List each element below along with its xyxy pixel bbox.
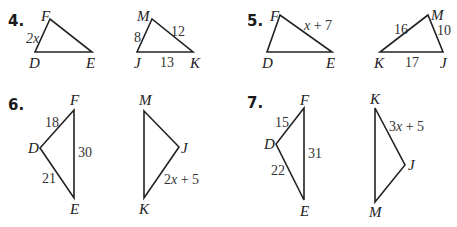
problem-7: 7. F D E 15 31 22 K J M 3x + 5 [247, 91, 424, 220]
problem-6: 6. F D E 18 30 21 M J K 2x + 5 [8, 92, 199, 217]
vertex-label-d: D [263, 136, 275, 152]
side-label-de: 22 [271, 163, 285, 178]
vertex-label-k: K [369, 91, 381, 107]
vertex-label-j: J [181, 140, 189, 156]
worksheet-figure: 4. F D E 2x M J K 8 12 13 5. F D E x + 7 [0, 0, 457, 227]
side-label-fe: 30 [78, 145, 92, 160]
vertex-label-m: M [136, 8, 151, 24]
side-label-mj: 10 [437, 23, 451, 38]
vertex-label-k: K [138, 201, 150, 217]
problem-5: 5. F D E x + 7 M K J 16 10 17 [247, 7, 451, 71]
vertex-label-j: J [134, 55, 142, 71]
vertex-label-d: D [28, 55, 40, 71]
side-label-kj: 3x + 5 [389, 119, 424, 134]
vertex-label-f: F [40, 8, 51, 24]
vertex-label-f: F [269, 8, 280, 24]
side-label-df: 18 [45, 115, 59, 130]
triangle-def: F D E 18 30 21 [27, 92, 92, 217]
problem-number: 4. [8, 12, 24, 30]
side-label-jk: 2x + 5 [164, 172, 199, 187]
side-label-jk: 13 [160, 55, 174, 70]
problem-number: 5. [247, 12, 263, 30]
side-label-km: 16 [394, 22, 408, 37]
triangle-mjk: M J K 8 12 13 [134, 8, 201, 71]
vertex-label-j: J [408, 157, 416, 173]
side-label-jm: 8 [134, 30, 141, 45]
side-label-df: 15 [275, 115, 289, 130]
vertex-label-m: M [138, 92, 153, 108]
triangle-def: F D E x + 7 [261, 8, 335, 71]
vertex-label-e: E [325, 55, 335, 71]
vertex-label-e: E [299, 203, 309, 219]
side-label-kj: 17 [405, 55, 419, 70]
side-label-fe: 31 [308, 146, 322, 161]
side-label-df: 2x [26, 31, 40, 46]
triangle-kjm: K J M 3x + 5 [368, 91, 424, 220]
vertex-label-k: K [189, 55, 201, 71]
vertex-label-e: E [69, 201, 79, 217]
triangle-mjk: M J K 2x + 5 [138, 92, 199, 217]
vertex-label-m: M [368, 204, 383, 220]
problem-number: 7. [247, 94, 263, 112]
triangle-kmj: M K J 16 10 17 [373, 7, 451, 71]
triangle-def: F D E 15 31 22 [263, 92, 322, 219]
vertex-label-j: J [440, 55, 448, 71]
problem-4: 4. F D E 2x M J K 8 12 13 [8, 8, 201, 71]
vertex-label-d: D [27, 140, 39, 156]
side-label-de: 21 [42, 171, 56, 186]
side-label-fe: x + 7 [303, 18, 332, 33]
triangle-def: F D E 2x [26, 8, 95, 71]
vertex-label-m: M [430, 7, 445, 23]
side-label-mk: 12 [171, 24, 185, 39]
problem-number: 6. [8, 96, 24, 114]
vertex-label-f: F [299, 92, 310, 108]
vertex-label-k: K [373, 55, 385, 71]
vertex-label-e: E [85, 55, 95, 71]
vertex-label-f: F [69, 92, 80, 108]
vertex-label-d: D [261, 55, 273, 71]
